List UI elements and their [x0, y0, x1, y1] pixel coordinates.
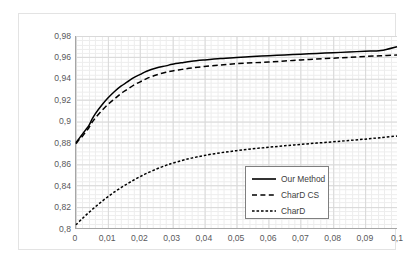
legend-label-chard-cs: CharD CS — [281, 191, 319, 200]
legend-item-our-method: Our Method — [246, 171, 328, 187]
y-tick-label: 0,92 — [25, 96, 71, 105]
x-tick-label: 0,1 — [391, 233, 403, 243]
series-line-0 — [76, 47, 397, 143]
x-tick-label: 0,06 — [260, 233, 277, 243]
x-tick-label: 0,08 — [324, 233, 341, 243]
legend-label-chard: CharD — [281, 207, 305, 216]
series-line-1 — [76, 55, 397, 144]
y-tick-label: 0,88 — [25, 139, 71, 148]
x-tick-label: 0,05 — [228, 233, 245, 243]
y-tick-label: 0,98 — [25, 32, 71, 41]
legend-item-chard: CharD — [246, 203, 328, 219]
y-axis-tick-labels: 0,80,820,840,860,880,90,920,940,960,98 — [21, 36, 71, 229]
y-tick-label: 0,8 — [25, 225, 71, 234]
legend-swatch-dashed-icon — [251, 190, 277, 200]
chart-legend: Our Method CharD CS CharD — [245, 166, 329, 219]
series-lines — [76, 36, 397, 228]
y-tick-label: 0,86 — [25, 160, 71, 169]
y-tick-label: 0,96 — [25, 53, 71, 62]
y-tick-label: 0,82 — [25, 203, 71, 212]
x-tick-label: 0,02 — [131, 233, 148, 243]
x-axis-tick-labels: 00,010,020,030,040,050,060,070,080,090,1 — [75, 232, 397, 248]
legend-item-chard-cs: CharD CS — [246, 187, 328, 203]
legend-label-our-method: Our Method — [281, 175, 325, 184]
y-tick-label: 0,9 — [25, 117, 71, 126]
chart-frame: 0,80,820,840,860,880,90,920,940,960,98 0… — [18, 13, 396, 250]
series-line-2 — [76, 136, 397, 225]
x-tick-label: 0,09 — [356, 233, 373, 243]
x-tick-label: 0,01 — [99, 233, 116, 243]
y-tick-label: 0,84 — [25, 182, 71, 191]
legend-swatch-dotted-icon — [251, 206, 277, 216]
x-tick-label: 0,03 — [163, 233, 180, 243]
legend-swatch-solid-icon — [251, 174, 277, 184]
plot-area — [75, 36, 397, 229]
y-tick-label: 0,94 — [25, 74, 71, 83]
x-tick-label: 0,07 — [292, 233, 309, 243]
x-tick-label: 0 — [73, 233, 78, 243]
x-tick-label: 0,04 — [195, 233, 212, 243]
chart-container: 0,80,820,840,860,880,90,920,940,960,98 0… — [0, 0, 409, 262]
